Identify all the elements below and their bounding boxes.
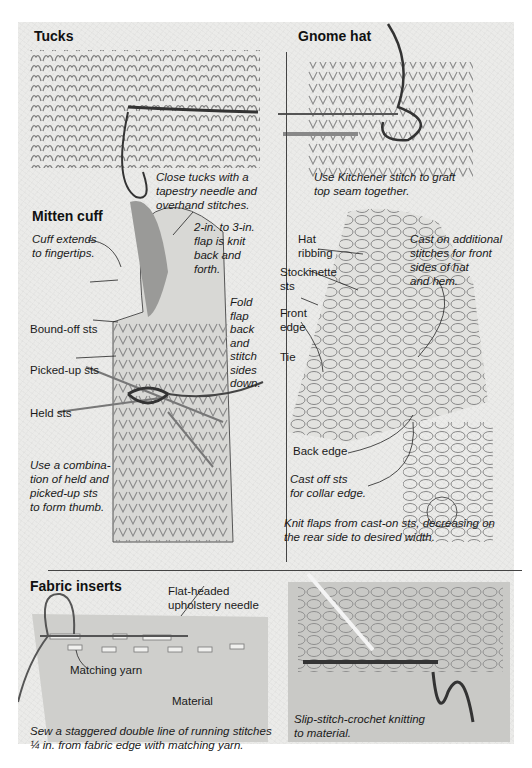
fabric-insert-illustration xyxy=(18,594,268,742)
hat-ribbing-label: Hat ribbing xyxy=(298,232,333,260)
material-label: Material xyxy=(172,694,213,708)
tucks-heading: Tucks xyxy=(34,28,73,44)
needle-label: Flat-headed upholstery needle xyxy=(168,584,259,612)
gnome-hat-heading: Gnome hat xyxy=(298,28,371,44)
mitten-caption: Use a combina- tion of held and picked-u… xyxy=(30,458,111,514)
fold-flap-label: Fold flap back and stitch sides down. xyxy=(230,296,261,391)
mitten-cuff-heading: Mitten cuff xyxy=(32,208,103,224)
kitchener-swatch xyxy=(278,24,473,177)
crochet-caption: Slip-stitch-crochet knitting to material… xyxy=(294,712,425,740)
fabric-inserts-caption: Sew a staggered double line of running s… xyxy=(30,724,272,752)
stockinette-label: Stockinette sts xyxy=(280,265,337,293)
fabric-inserts-heading: Fabric inserts xyxy=(30,578,122,594)
picked-up-label: Picked-up sts xyxy=(30,363,99,377)
matching-yarn-label: Matching yarn xyxy=(70,663,142,677)
kitchener-caption: Use Kitchener stitch to graft top seam t… xyxy=(314,170,455,198)
cast-on-label: Cast on additional stitches for front si… xyxy=(410,232,502,288)
back-edge-label: Back edge xyxy=(293,444,347,458)
front-edge-label: Front edge xyxy=(280,306,307,334)
flap-label: 2-in. to 3-in. flap is knit back and for… xyxy=(194,220,255,276)
cuff-extends-label: Cuff extends to fingertips. xyxy=(32,232,97,260)
gnome-hat-bottom-caption: Knit flaps from cast-on sts, decreasing … xyxy=(284,516,495,544)
held-label: Held sts xyxy=(30,406,72,420)
cast-off-label: Cast off sts for collar edge. xyxy=(290,472,366,500)
illustration-page: Tucks Close tucks with a tapestry needle… xyxy=(18,22,514,744)
tucks-caption: Close tucks with a tapestry needle and o… xyxy=(156,170,257,212)
bound-off-label: Bound-off sts xyxy=(30,322,98,336)
tie-label: Tie xyxy=(280,350,296,364)
knitting-illustrations xyxy=(18,22,514,744)
horizontal-divider xyxy=(48,570,522,571)
